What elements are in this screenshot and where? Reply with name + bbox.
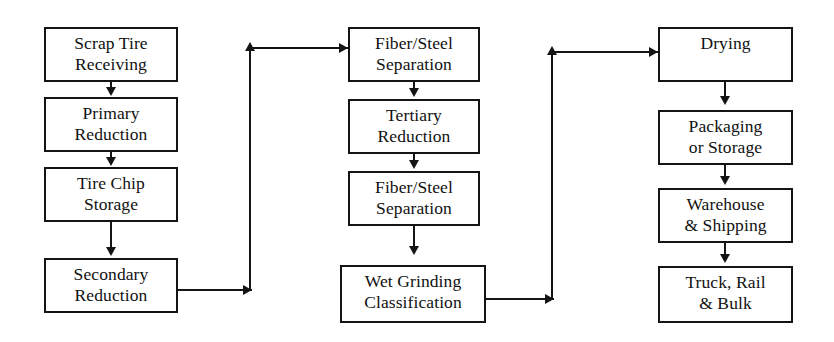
arrowhead-down-icon (106, 247, 116, 256)
node-label-line: or Storage (689, 137, 762, 158)
connector-line (249, 48, 251, 290)
node-fiber-steel-separation-1[interactable]: Fiber/Steel Separation (348, 27, 480, 82)
node-secondary-reduction[interactable]: Secondary Reduction (44, 258, 178, 313)
node-label-line: Storage (84, 194, 138, 215)
arrowhead-down-icon (409, 246, 419, 255)
node-label-line: Reduction (75, 285, 148, 306)
node-label-line: Reduction (75, 124, 148, 145)
node-tire-chip-storage[interactable]: Tire Chip Storage (44, 167, 178, 222)
arrowhead-down-icon (720, 96, 730, 105)
node-warehouse-shipping[interactable]: Warehouse & Shipping (658, 188, 793, 243)
node-label-line: Warehouse (686, 194, 764, 215)
connector-line (413, 226, 415, 248)
node-label-line: Tire Chip (77, 173, 145, 194)
node-label-line: & Shipping (684, 215, 766, 236)
arrowhead-down-icon (720, 176, 730, 185)
connector-line (178, 289, 252, 291)
node-label-line: Truck, Rail (685, 272, 765, 293)
node-label-line: Scrap Tire (74, 33, 147, 54)
node-label-line: Fiber/Steel (375, 33, 453, 54)
connector-line (486, 298, 554, 300)
arrowhead-down-icon (106, 157, 116, 166)
node-primary-reduction[interactable]: Primary Reduction (44, 97, 178, 152)
node-label-line: Separation (376, 198, 452, 219)
node-label-line: Wet Grinding (365, 271, 462, 292)
node-label-line: Reduction (378, 126, 451, 147)
node-drying[interactable]: Drying (658, 27, 793, 82)
node-label-line: Fiber/Steel (375, 177, 453, 198)
node-label-line: Primary (82, 103, 139, 124)
node-fiber-steel-separation-2[interactable]: Fiber/Steel Separation (348, 171, 480, 226)
node-label-line: Receiving (75, 54, 147, 75)
arrowhead-right-icon (339, 43, 348, 53)
connector-line (110, 222, 112, 249)
arrowhead-down-icon (409, 160, 419, 169)
arrowhead-down-icon (720, 254, 730, 263)
node-packaging-or-storage[interactable]: Packaging or Storage (658, 110, 793, 165)
node-tertiary-reduction[interactable]: Tertiary Reduction (348, 99, 480, 154)
arrowhead-down-icon (409, 88, 419, 97)
connector-line (551, 51, 658, 53)
connector-line (249, 47, 348, 49)
node-label-line: Separation (376, 54, 452, 75)
node-wet-grinding-classification[interactable]: Wet Grinding Classification (340, 265, 486, 323)
connector-line (551, 52, 553, 299)
node-label-line: & Bulk (699, 293, 752, 314)
node-label-line: Drying (700, 33, 750, 54)
arrowhead-right-icon (649, 47, 658, 57)
node-truck-rail-bulk[interactable]: Truck, Rail & Bulk (658, 266, 793, 323)
node-scrap-tire-receiving[interactable]: Scrap Tire Receiving (44, 27, 178, 82)
node-label-line: Classification (364, 292, 462, 313)
node-label-line: Secondary (74, 264, 149, 285)
flowchart-canvas: Scrap Tire Receiving Primary Reduction T… (0, 0, 834, 342)
arrowhead-down-icon (106, 87, 116, 96)
node-label-line: Packaging (689, 116, 763, 137)
node-label-line: Tertiary (386, 105, 442, 126)
